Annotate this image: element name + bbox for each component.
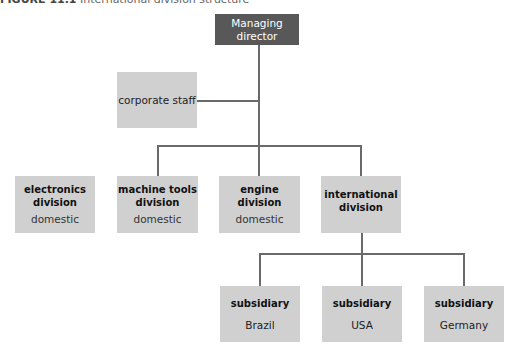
electronics-division-box: electronics division domestic bbox=[15, 176, 95, 233]
connector-engine bbox=[258, 145, 260, 176]
connector-germany bbox=[463, 253, 465, 286]
managing-director-line1: Managing bbox=[231, 17, 283, 30]
division-subtitle: domestic bbox=[133, 213, 181, 226]
connector-md-vertical bbox=[258, 45, 260, 146]
division-title: machine tools bbox=[118, 183, 197, 196]
division-title: international bbox=[324, 188, 397, 201]
engine-division-box: engine division domestic bbox=[219, 176, 300, 233]
division-title: division bbox=[33, 196, 77, 209]
corporate-staff-label: corporate staff bbox=[118, 94, 196, 107]
connector-international bbox=[360, 145, 362, 176]
connector-machine-tools bbox=[157, 145, 159, 176]
subsidiary-country: USA bbox=[351, 319, 373, 332]
subsidiary-germany-box: subsidiary Germany bbox=[424, 286, 504, 342]
figure-label: FIGURE 11.1 bbox=[0, 0, 77, 6]
division-title: division bbox=[238, 196, 282, 209]
managing-director-line2: director bbox=[237, 30, 278, 43]
subsidiary-country: Brazil bbox=[245, 319, 274, 332]
machine-tools-division-box: machine tools division domestic bbox=[117, 176, 198, 233]
division-title: engine bbox=[240, 183, 278, 196]
division-title: electronics bbox=[24, 183, 86, 196]
connector-staff bbox=[197, 100, 259, 102]
connector-brazil bbox=[259, 253, 261, 286]
subsidiary-brazil-box: subsidiary Brazil bbox=[220, 286, 300, 342]
connector-subsidiaries-horizontal bbox=[259, 253, 465, 255]
division-subtitle: domestic bbox=[235, 213, 283, 226]
division-subtitle: domestic bbox=[31, 213, 79, 226]
corporate-staff-box: corporate staff bbox=[117, 72, 197, 128]
figure-title: FIGURE 11.1 International division struc… bbox=[0, 0, 249, 6]
connector-international-down bbox=[361, 233, 363, 286]
international-division-box: international division bbox=[321, 176, 401, 233]
subsidiary-title: subsidiary bbox=[231, 297, 289, 310]
subsidiary-usa-box: subsidiary USA bbox=[322, 286, 402, 342]
figure-caption: International division structure bbox=[80, 0, 249, 6]
division-title: division bbox=[339, 201, 383, 214]
subsidiary-country: Germany bbox=[440, 319, 488, 332]
division-title: division bbox=[136, 196, 180, 209]
subsidiary-title: subsidiary bbox=[333, 297, 391, 310]
managing-director-box: Managing director bbox=[215, 14, 299, 45]
subsidiary-title: subsidiary bbox=[435, 297, 493, 310]
